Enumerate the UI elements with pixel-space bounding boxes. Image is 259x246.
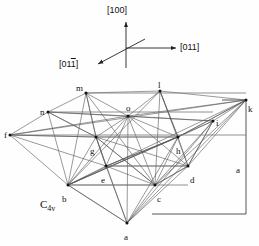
lattice-edge [48, 112, 213, 121]
lattice-vertex-node [9, 134, 12, 137]
lattice-edge [68, 116, 128, 185]
vertex-label-d: d [190, 176, 195, 185]
lattice-edge [48, 93, 86, 112]
lattice-vertex-node [47, 111, 50, 114]
lattice-edge [68, 185, 127, 223]
lattice-edge [128, 116, 155, 185]
vertex-label-g: g [90, 147, 95, 156]
axis-label-011bar: [011] [59, 60, 78, 69]
figure-canvas: [100] [011] [011] C4v a abcdefghiklmno [0, 0, 259, 246]
vertex-label-h: h [176, 147, 181, 156]
vertex-label-n: n [40, 108, 45, 117]
lattice-edge [155, 121, 213, 185]
vertex-label-c: c [157, 195, 161, 204]
lattice-edge [68, 91, 160, 185]
vertex-label-a: a [124, 233, 128, 242]
lattice-edge [127, 185, 155, 223]
vertex-label-e: e [101, 176, 105, 185]
axis-label-011bar-prefix: [01 [59, 59, 71, 69]
lattice-edge [188, 100, 246, 166]
axis-label-011: [011] [180, 43, 199, 52]
lattice-edge [68, 93, 86, 185]
vertex-label-b: b [62, 195, 67, 204]
vertex-label-m: m [76, 84, 83, 93]
lattice-edge [155, 166, 188, 185]
lattice-edge [155, 91, 160, 185]
lattice-edge [10, 135, 68, 185]
dimension-label-a: a [236, 166, 240, 175]
lattice-edge [155, 137, 178, 185]
vertex-label-k: k [248, 105, 253, 114]
lattice-vertex-node [126, 222, 129, 225]
vertex-label-f: f [4, 131, 7, 140]
lattice-vertex-node [85, 92, 88, 95]
lattice-vertex-node [105, 165, 108, 168]
lattice-vertex-node [154, 184, 157, 187]
lattice-vertex-node [187, 165, 190, 168]
vertex-label-l: l [158, 81, 161, 90]
vertex-label-i: i [216, 119, 219, 128]
lattice-edge [127, 116, 128, 223]
lattice-vertex-node [127, 115, 130, 118]
lattice-edge [48, 112, 96, 137]
vertex-label-o: o [126, 104, 131, 113]
axis-label-011bar-suffix: ] [76, 59, 79, 69]
lattice-edge [127, 137, 178, 223]
lattice-vertex-node [95, 136, 98, 139]
point-group-subscript: 4v [47, 204, 55, 213]
lattice-edge [86, 93, 128, 116]
axis-011bar-line [98, 39, 145, 64]
lattice-vertex-node [67, 184, 70, 187]
axis-group [98, 22, 176, 68]
lattice-edge [160, 91, 178, 137]
lattice-edge [160, 91, 246, 100]
axis-label-100: [100] [107, 6, 127, 15]
lattice-vertex-node [245, 99, 248, 102]
lattice-vertex-node [212, 120, 215, 123]
point-group-label: C4v [40, 199, 55, 214]
lattice-edge [188, 121, 213, 166]
lattice-diagram [0, 0, 259, 246]
lattice-vertex-node [177, 136, 180, 139]
